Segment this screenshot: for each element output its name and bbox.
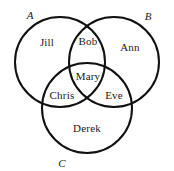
region-label-a-b-and-c: Mary [76,71,101,82]
venn-diagram: A B C Jill Ann Derek Bob Chris Eve Mary [0,0,174,171]
region-label-a-only: Jill [40,37,54,48]
set-label-c: C [58,158,65,169]
set-label-b: B [145,11,152,22]
region-label-b-and-c: Eve [105,90,123,101]
region-label-b-only: Ann [120,42,140,53]
region-label-c-only: Derek [73,123,101,134]
venn-circles [0,0,174,171]
set-label-a: A [27,10,34,21]
region-label-a-and-c: Chris [50,90,75,101]
region-label-a-and-b: Bob [79,36,98,47]
